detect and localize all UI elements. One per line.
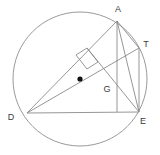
geometry-canvas: A T D E G xyxy=(0,0,160,155)
vertex-label-T: T xyxy=(143,39,149,49)
geometry-figure: A T D E G xyxy=(0,0,160,155)
vertex-label-D: D xyxy=(8,112,15,122)
vertex-label-E: E xyxy=(140,116,146,126)
vertex-label-A: A xyxy=(115,4,121,14)
segment-D-E xyxy=(27,112,139,113)
circle-center-dot xyxy=(77,76,82,81)
vertex-label-G: G xyxy=(103,84,110,94)
segment-D-A xyxy=(27,21,117,113)
segment-D-T xyxy=(27,48,139,113)
